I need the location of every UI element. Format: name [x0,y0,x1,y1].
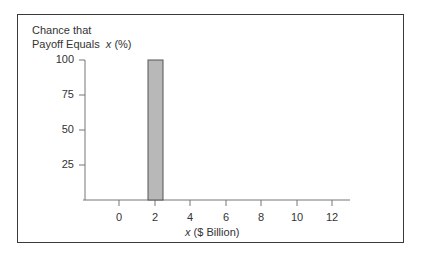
x-tick-2: 2 [143,211,167,223]
x-tick-10: 10 [285,211,309,223]
x-label-suffix: ($ Billion) [194,226,240,238]
x-label-var: x [185,226,191,238]
y-tick-50: 50 [44,123,74,135]
x-axis-label: x ($ Billion) [185,226,239,238]
x-tick-12: 12 [320,211,344,223]
x-tick-0: 0 [107,211,131,223]
x-tick-6: 6 [214,211,238,223]
x-tick-8: 8 [249,211,273,223]
x-tick-4: 4 [178,211,202,223]
y-tick-75: 75 [44,88,74,100]
y-tick-100: 100 [44,53,74,65]
bar-x-2 [148,60,163,200]
y-tick-25: 25 [44,158,74,170]
